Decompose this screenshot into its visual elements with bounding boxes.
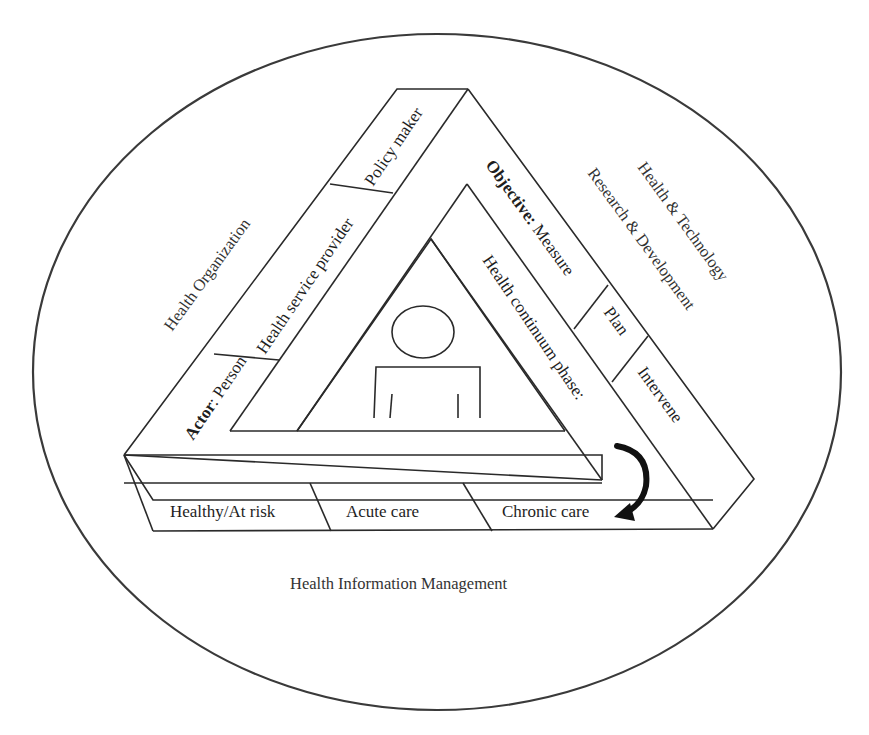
bottom-band-box — [124, 455, 713, 500]
curved-arrow-icon — [614, 446, 646, 521]
phase-acute-care: Acute care — [346, 502, 419, 521]
actor-segment-person: Person — [209, 352, 251, 401]
divider-measure-plan — [574, 285, 608, 329]
label-health-information-management: Health Information Management — [290, 574, 508, 593]
phase-chronic-care: Chronic care — [502, 502, 589, 521]
health-framework-diagram: Health Organization Health & Technology … — [0, 0, 869, 735]
bottom-band-bottom-edge — [153, 529, 713, 531]
health-continuum-phase-label: Health continuum phase: — [479, 252, 590, 404]
divider-acute-chronic — [463, 483, 492, 531]
divider-healthy-acute — [310, 483, 331, 531]
actor-band-outer-edge — [124, 89, 468, 455]
objective-intervene-label: Intervene — [634, 363, 687, 426]
bottom-band-top-edge — [124, 455, 602, 480]
divider-policy-hsp — [330, 184, 393, 193]
actor-health-service-provider-label: Health service provider — [253, 214, 358, 357]
label-health-organization: Health Organization — [160, 215, 254, 335]
label-research-development: Research & Development — [584, 164, 700, 313]
outer-ellipse — [33, 34, 841, 710]
person-triangle — [297, 239, 565, 431]
person-icon — [374, 306, 480, 418]
actor-policy-maker-label: Policy maker — [361, 104, 427, 190]
phase-healthy-at-risk: Healthy/At risk — [170, 502, 276, 521]
label-health-technology: Health & Technology — [634, 158, 734, 285]
actor-band-inner-edge — [230, 89, 468, 431]
objective-band-inner-edge — [467, 184, 713, 529]
